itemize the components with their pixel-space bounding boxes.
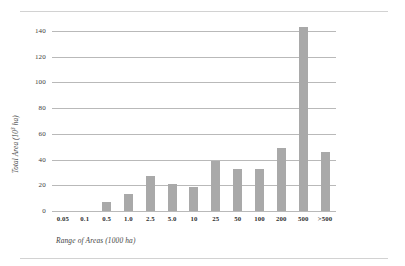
x-axis-tick-label: 0.5 bbox=[96, 215, 118, 222]
x-axis-tick-labels: 0.050.10.51.02.55.0102550100200500>500 bbox=[52, 215, 336, 222]
bar-series bbox=[52, 31, 336, 211]
x-axis-tick-label: 0.05 bbox=[52, 215, 74, 222]
bar bbox=[124, 194, 133, 211]
bar-slot bbox=[249, 31, 271, 211]
bar-slot bbox=[52, 31, 74, 211]
bar bbox=[255, 169, 264, 211]
plot-area: 020406080100120140 bbox=[52, 31, 336, 211]
bar-slot bbox=[161, 31, 183, 211]
y-axis-tick-label: 140 bbox=[35, 27, 46, 35]
figure-page: Total Area (103 ha) 020406080100120140 0… bbox=[0, 0, 405, 266]
page-rule-bottom bbox=[20, 258, 388, 259]
x-axis-tick-label: 0.1 bbox=[74, 215, 96, 222]
bar-slot bbox=[227, 31, 249, 211]
bar bbox=[321, 152, 330, 211]
x-axis-tick-label: 25 bbox=[205, 215, 227, 222]
x-axis-tick-label: 10 bbox=[183, 215, 205, 222]
bar bbox=[277, 148, 286, 211]
bar-slot bbox=[74, 31, 96, 211]
x-axis-tick-label: 2.5 bbox=[139, 215, 161, 222]
bar bbox=[211, 161, 220, 211]
page-rule-top bbox=[20, 11, 388, 12]
bar bbox=[102, 202, 111, 211]
bar bbox=[233, 169, 242, 211]
y-axis-tick-label: 120 bbox=[35, 53, 46, 61]
y-axis-tick-label: 80 bbox=[39, 104, 46, 112]
x-axis-tick-label: 200 bbox=[270, 215, 292, 222]
bar bbox=[146, 176, 155, 211]
bar bbox=[168, 184, 177, 211]
y-axis-title-main: Total Area (10 bbox=[12, 130, 20, 173]
y-axis-title-exponent: 3 bbox=[10, 127, 16, 130]
bar-slot bbox=[118, 31, 140, 211]
bar-slot bbox=[314, 31, 336, 211]
x-axis-title: Range of Areas (1000 ha) bbox=[56, 236, 136, 245]
x-axis-tick-label: 50 bbox=[227, 215, 249, 222]
gridline bbox=[52, 211, 336, 212]
x-axis-tick-label: 5.0 bbox=[161, 215, 183, 222]
bar-slot bbox=[96, 31, 118, 211]
y-axis-tick-label: 40 bbox=[39, 156, 46, 164]
bar bbox=[299, 27, 308, 211]
bar bbox=[189, 187, 198, 211]
y-axis-tick-label: 0 bbox=[42, 207, 46, 215]
x-axis-tick-label: 1.0 bbox=[118, 215, 140, 222]
x-axis-tick-label: 500 bbox=[292, 215, 314, 222]
y-axis-title: Total Area (103 ha) bbox=[10, 99, 20, 189]
bar-slot bbox=[270, 31, 292, 211]
bar-chart: Total Area (103 ha) 020406080100120140 0… bbox=[0, 14, 405, 254]
bar-slot bbox=[292, 31, 314, 211]
bar-slot bbox=[139, 31, 161, 211]
x-axis-tick-label: >500 bbox=[314, 215, 336, 222]
y-axis-tick-label: 60 bbox=[39, 130, 46, 138]
x-axis-tick-label: 100 bbox=[249, 215, 271, 222]
bar-slot bbox=[183, 31, 205, 211]
y-axis-tick-label: 20 bbox=[39, 181, 46, 189]
y-axis-title-tail: ha) bbox=[12, 115, 20, 127]
bar-slot bbox=[205, 31, 227, 211]
y-axis-tick-label: 100 bbox=[35, 78, 46, 86]
